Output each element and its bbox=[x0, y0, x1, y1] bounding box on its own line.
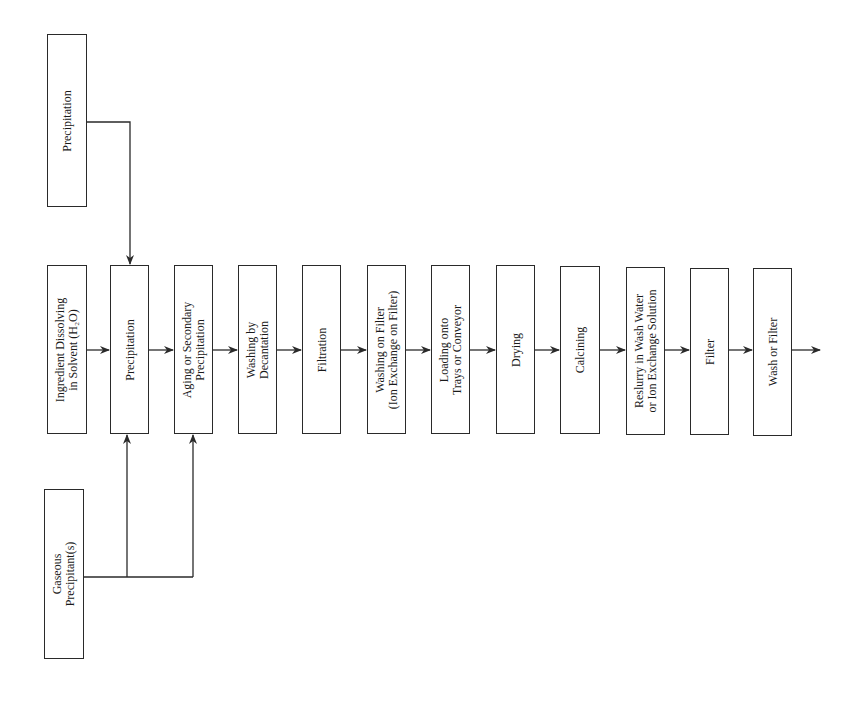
label-line: Filter bbox=[703, 339, 716, 365]
label-line: Washing on Filter bbox=[374, 290, 387, 408]
step-box-s9: Calcining bbox=[560, 266, 600, 434]
box-label: Drying bbox=[509, 333, 522, 367]
box-label: Precipitation bbox=[123, 319, 136, 380]
box-label: Aging or SecondaryPrecipitation bbox=[181, 301, 207, 398]
label-line: Loading onto bbox=[438, 304, 451, 394]
label-line: (Ion Exchange on Filter) bbox=[387, 290, 400, 408]
label-line: Precipitation bbox=[61, 90, 74, 151]
box-label: Precipitation bbox=[61, 90, 74, 151]
label-line: Precipitant(s) bbox=[64, 542, 77, 607]
step-box-s11: Filter bbox=[690, 268, 729, 435]
label-line: Washing by bbox=[245, 321, 258, 379]
step-box-s6: Washing on Filter(Ion Exchange on Filter… bbox=[367, 265, 406, 434]
label-line: in Solvent (H₂O) bbox=[67, 297, 80, 401]
label-line: Trays or Conveyor bbox=[451, 304, 464, 394]
label-line: Calcining bbox=[574, 327, 587, 374]
box-label: Filtration bbox=[315, 327, 328, 372]
label-line: Filtration bbox=[315, 327, 328, 372]
box-label: Washing byDecantation bbox=[245, 321, 271, 379]
step-box-s5: Filtration bbox=[302, 265, 341, 434]
label-line: Aging or Secondary bbox=[181, 301, 194, 398]
box-label: Loading ontoTrays or Conveyor bbox=[438, 304, 464, 394]
label-line: Precipitation bbox=[123, 319, 136, 380]
input-box-gas-input: GaseousPrecipitant(s) bbox=[44, 489, 84, 659]
box-label: Reslurry in Wash Wateror Ion Exchange So… bbox=[633, 290, 659, 413]
box-label: Filter bbox=[703, 339, 716, 365]
step-box-s7: Loading ontoTrays or Conveyor bbox=[431, 265, 470, 434]
label-line: Decantation bbox=[258, 321, 271, 379]
step-box-s8: Drying bbox=[496, 265, 535, 434]
label-line: Drying bbox=[509, 333, 522, 367]
step-box-s4: Washing byDecantation bbox=[238, 265, 277, 434]
precipitation-feed-arrow bbox=[87, 122, 130, 264]
box-label: Washing on Filter(Ion Exchange on Filter… bbox=[374, 290, 400, 408]
label-line: or Ion Exchange Solution bbox=[646, 290, 659, 413]
label-line: Reslurry in Wash Water bbox=[633, 290, 646, 413]
step-box-s2: Precipitation bbox=[110, 265, 149, 434]
step-box-s3: Aging or SecondaryPrecipitation bbox=[174, 265, 213, 434]
box-label: GaseousPrecipitant(s) bbox=[51, 542, 77, 607]
box-label: Wash or Filter bbox=[766, 318, 779, 386]
box-label: Calcining bbox=[574, 327, 587, 374]
step-box-s10: Reslurry in Wash Wateror Ion Exchange So… bbox=[626, 267, 665, 435]
box-label: Ingredient Dissolvingin Solvent (H₂O) bbox=[54, 297, 80, 401]
input-box-precip-input: Precipitation bbox=[47, 34, 87, 207]
step-box-s1: Ingredient Dissolvingin Solvent (H₂O) bbox=[47, 265, 87, 434]
step-box-s12: Wash or Filter bbox=[753, 268, 792, 436]
label-line: Wash or Filter bbox=[766, 318, 779, 386]
label-line: Precipitation bbox=[194, 301, 207, 398]
